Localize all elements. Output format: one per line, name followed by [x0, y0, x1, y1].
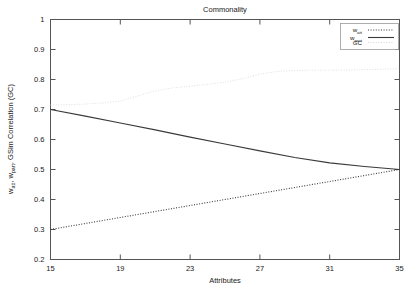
x-tick-label: 31	[326, 264, 334, 273]
x-tick-label: 23	[186, 264, 194, 273]
y-tick-label: 0.9	[34, 45, 44, 54]
svg-text:watt, wpart, GSim Correlation: watt, wpart, GSim Correlation (GC)	[6, 84, 16, 195]
y-tick-label: 0.3	[34, 225, 44, 234]
line-chart: Commonality 0.20.30.40.50.60.70.80.91 15…	[0, 0, 418, 289]
y-axis-ticks: 0.20.30.40.50.60.70.80.91	[34, 15, 399, 264]
series-line-GC	[51, 69, 400, 105]
x-axis-label: Attributes	[209, 276, 241, 285]
x-tick-label: 27	[256, 264, 264, 273]
y-tick-label: 0.5	[34, 165, 44, 174]
x-tick-label: 19	[116, 264, 124, 273]
data-series-layer	[51, 69, 400, 230]
x-tick-label: 15	[46, 264, 54, 273]
x-tick-label: 35	[395, 264, 403, 273]
series-line-w-att	[51, 170, 400, 230]
series-line-w-part	[51, 110, 400, 170]
chart-title: Commonality	[203, 5, 247, 14]
chart-legend: wattwpartGC	[341, 24, 399, 50]
legend-label-2: GC	[353, 39, 363, 46]
legend-label-sub: att	[357, 30, 363, 35]
y-tick-label: 0.7	[34, 105, 44, 114]
y-tick-label: 1	[40, 15, 44, 24]
y-axis-label-part: , GSim Correlation (GC)	[6, 84, 15, 165]
y-tick-label: 0.8	[34, 75, 44, 84]
chart-screenshot: Commonality 0.20.30.40.50.60.70.80.91 15…	[0, 0, 418, 289]
plot-frame	[51, 20, 400, 260]
x-axis-ticks: 151923273135	[46, 20, 403, 273]
y-tick-label: 0.4	[34, 195, 44, 204]
y-axis-label: watt, wpart, GSim Correlation (GC)	[6, 84, 16, 195]
y-tick-label: 0.6	[34, 135, 44, 144]
legend-label-base: GC	[353, 39, 363, 46]
y-tick-label: 0.2	[34, 255, 44, 264]
